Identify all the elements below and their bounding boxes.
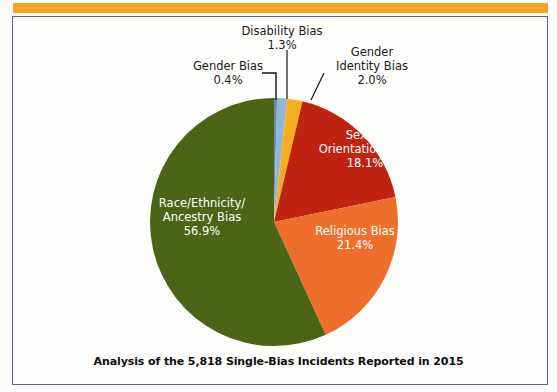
label-gender-identity-bias-name-1: Gender [320,45,424,59]
label-religious-bias-percent: 21.4% [300,238,410,252]
accent-bar [13,3,548,13]
label-race-ethnicity-bias: Race/Ethnicity/ Ancestry Bias 56.9% [140,196,264,238]
label-gender-identity-bias-name-2: Identity Bias [320,59,424,73]
label-religious-bias-name: Religious Bias [300,224,410,238]
label-disability-bias-name: Disability Bias [222,24,342,38]
label-sexual-orientation-bias: Sexual Orientation Bias 18.1% [305,128,425,170]
label-gender-bias-name: Gender Bias [178,59,278,73]
label-sexual-orientation-bias-name-2: Orientation Bias [305,142,425,156]
label-race-ethnicity-bias-percent: 56.9% [140,224,264,238]
label-race-ethnicity-bias-name-2: Ancestry Bias [140,210,264,224]
chart-caption: Analysis of the 5,818 Single-Bias Incide… [0,355,557,368]
chart-panel [12,16,548,385]
label-gender-identity-bias: Gender Identity Bias 2.0% [320,45,424,87]
label-race-ethnicity-bias-name-1: Race/Ethnicity/ [140,196,264,210]
label-sexual-orientation-bias-name-1: Sexual [305,128,425,142]
label-gender-bias-percent: 0.4% [178,73,278,87]
label-religious-bias: Religious Bias 21.4% [300,224,410,252]
label-gender-bias: Gender Bias 0.4% [178,59,278,87]
chart-page: Disability Bias 1.3% Gender Bias 0.4% Ge… [0,0,557,392]
label-gender-identity-bias-percent: 2.0% [320,73,424,87]
label-sexual-orientation-bias-percent: 18.1% [305,156,425,170]
